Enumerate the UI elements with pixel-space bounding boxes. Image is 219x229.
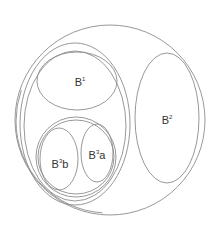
label-b1-sup: 1 [82,76,85,82]
label-b3b: B3b [52,159,69,170]
label-b3b-suffix: b [62,158,68,170]
label-b2: B2 [162,115,173,126]
label-b3a: B3a [89,150,106,161]
set-diagram [0,0,219,229]
label-b3b-sup: 3 [59,158,62,164]
label-b3a-sup: 3 [96,149,99,155]
label-b3a-suffix: a [99,149,105,161]
label-b1: B1 [75,77,86,88]
label-b2-sup: 2 [169,114,172,120]
left-group-ellipse-inner [24,51,126,201]
